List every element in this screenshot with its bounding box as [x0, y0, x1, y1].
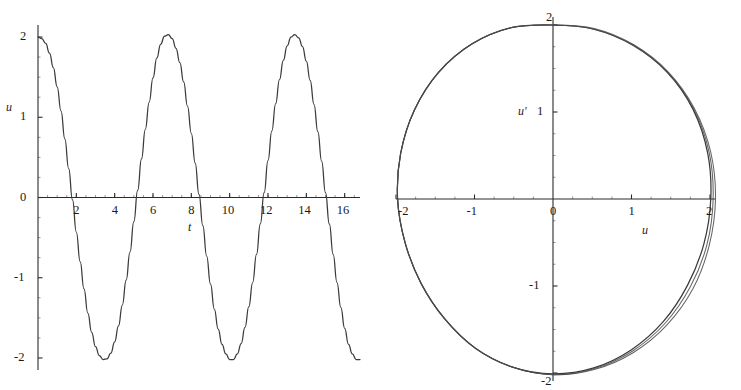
phase-portrait-y-tick-label: 2: [546, 11, 552, 24]
time-series-y-tick-label: 1: [20, 110, 26, 123]
time-series-x-tick-label: 6: [150, 204, 156, 217]
time-series-x-tick-label: 10: [222, 204, 235, 217]
time-series-plot: [0, 0, 371, 390]
time-series-y-axis-label: u: [6, 101, 12, 113]
phase-portrait-y-tick-label: -1: [529, 279, 539, 292]
time-series-y-tick-label: -2: [14, 351, 24, 364]
phase-portrait-x-axis-label: u: [642, 224, 648, 236]
phase-portrait-y-tick-label: -2: [541, 375, 551, 388]
time-series-x-tick-label: 8: [188, 204, 194, 217]
time-series-x-tick-label: 4: [112, 204, 118, 217]
time-series-y-tick-label: 0: [20, 191, 26, 204]
phase-portrait-panel: u' u 21-1-2 -2-1012: [370, 0, 741, 390]
phase-portrait-y-tick-label: 1: [537, 105, 543, 118]
time-series-panel: u t 210-1-2 246810121416: [0, 0, 371, 390]
phase-portrait-x-tick-label: -1: [467, 205, 477, 218]
time-series-x-tick-label: 16: [337, 204, 350, 217]
time-series-x-tick-label: 14: [298, 204, 311, 217]
time-series-y-tick-label: -1: [14, 271, 24, 284]
phase-portrait-x-tick-label: 0: [550, 205, 556, 218]
phase-portrait-x-tick-label: 1: [629, 205, 635, 218]
phase-portrait-y-axis-label: u': [518, 105, 527, 117]
phase-portrait-x-tick-label: -2: [398, 205, 408, 218]
phase-portrait-x-tick-label: 2: [706, 205, 712, 218]
figure-container: u t 210-1-2 246810121416 u' u 21-1-2 -2-…: [0, 0, 741, 390]
phase-portrait-plot: [370, 0, 741, 390]
time-series-x-tick-label: 2: [73, 204, 79, 217]
time-series-y-tick-label: 2: [20, 30, 26, 43]
time-series-x-tick-label: 12: [260, 204, 273, 217]
time-series-x-axis-label: t: [188, 221, 191, 233]
